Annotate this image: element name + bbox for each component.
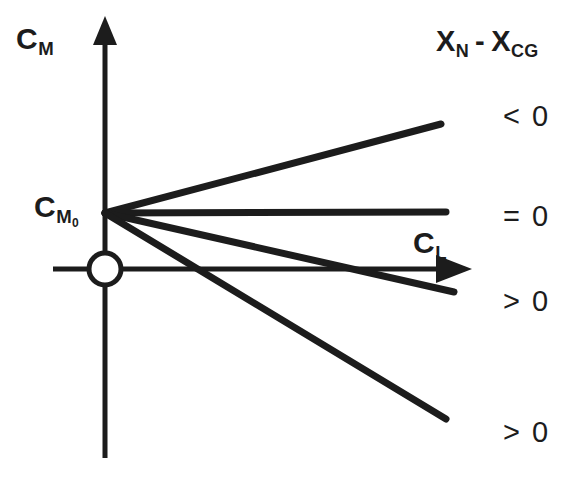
curve-static-margin-positive-shallow	[105, 213, 454, 292]
x-axis-label: CL	[413, 228, 447, 258]
legend-entry-equal-zero: = 0	[503, 202, 550, 231]
x-axis-label-base: C	[413, 226, 435, 259]
legend-entry-greater-than-zero-steep: > 0	[503, 418, 550, 447]
intercept-label-subscript: M0	[56, 206, 79, 227]
legend-header-xcg-subscript: CG	[511, 41, 538, 61]
y-axis-label: CM	[16, 24, 54, 54]
vertical-axis-arrowhead	[93, 16, 117, 45]
intercept-label-base: C	[34, 190, 56, 223]
legend-entry-less-than-zero: < 0	[503, 102, 550, 131]
legend-header-xcg-base: X	[491, 25, 511, 57]
moment-coefficient-diagram: CM CM0 CL XN-XCG < 0 = 0 > 0 > 0	[0, 0, 572, 482]
curve-static-margin-negative	[105, 124, 441, 213]
intercept-label-subscript-text: M	[56, 206, 72, 227]
x-axis-label-subscript: L	[435, 242, 447, 263]
intercept-label: CM0	[34, 192, 79, 222]
vertical-axis	[93, 16, 117, 458]
legend-header-xn-base: X	[436, 25, 456, 57]
y-axis-label-subscript: M	[38, 38, 54, 59]
y-axis-label-base: C	[16, 22, 38, 55]
legend-header-xn-subscript: N	[456, 41, 469, 61]
curve-static-margin-positive-steep	[105, 213, 446, 419]
diagram-canvas	[0, 0, 572, 482]
origin-circle-marker	[89, 253, 121, 285]
legend-entry-greater-than-zero-shallow: > 0	[503, 287, 550, 316]
legend-header: XN-XCG	[436, 27, 538, 56]
legend-header-minus: -	[469, 25, 491, 57]
intercept-label-subsubscript: 0	[72, 216, 79, 230]
curve-static-margin-zero	[105, 212, 446, 213]
